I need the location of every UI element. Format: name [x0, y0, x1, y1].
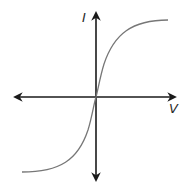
iv-curve	[22, 20, 168, 172]
x-axis-label: V	[169, 101, 179, 116]
iv-characteristic-diagram: I V	[0, 0, 188, 191]
y-axis-label: I	[82, 10, 86, 25]
